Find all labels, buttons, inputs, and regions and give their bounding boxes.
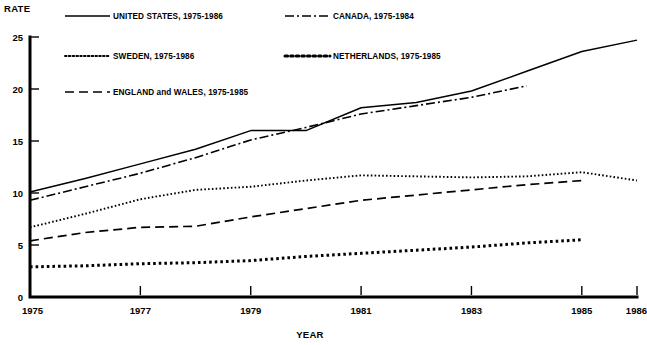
- series-line-3: [30, 181, 582, 241]
- x-tick-label: 1977: [130, 305, 151, 316]
- line-chart: RATE 0510152025 197519771979198119831985…: [0, 0, 647, 345]
- axis-lines: [30, 37, 637, 297]
- y-tick-label: 5: [18, 240, 24, 251]
- y-tick-label: 25: [12, 32, 23, 43]
- x-tick-label: 1985: [571, 305, 593, 316]
- legend-label-0: UNITED STATES, 1975-1986: [113, 12, 223, 21]
- y-tick-label: 15: [12, 136, 23, 147]
- series-line-2: [30, 172, 637, 227]
- chart-legend: UNITED STATES, 1975-1986CANADA, 1975-198…: [65, 12, 441, 97]
- x-axis-title: YEAR: [296, 329, 324, 340]
- legend-label-2: SWEDEN, 1975-1986: [113, 52, 195, 61]
- y-tick-label: 0: [18, 292, 23, 303]
- legend-label-1: CANADA, 1975-1984: [333, 12, 414, 21]
- legend-label-4: ENGLAND and WALES, 1975-1985: [113, 88, 249, 97]
- series-line-0: [30, 40, 637, 192]
- data-series-group: [30, 40, 637, 267]
- x-tick-label: 1983: [461, 305, 482, 316]
- y-axis-ticks: 0510152025: [12, 32, 39, 303]
- series-line-1: [30, 86, 527, 200]
- x-axis-ticks: 1975197719791981198319851986: [22, 286, 647, 316]
- x-tick-label: 1975: [22, 305, 44, 316]
- legend-label-3: NETHERLANDS, 1975-1985: [333, 52, 441, 61]
- y-axis-title: RATE: [4, 3, 30, 14]
- chart-container: RATE 0510152025 197519771979198119831985…: [0, 0, 647, 345]
- x-tick-label: 1986: [626, 305, 647, 316]
- series-line-4: [30, 240, 582, 267]
- y-tick-label: 10: [12, 188, 23, 199]
- y-tick-label: 20: [12, 84, 23, 95]
- x-tick-label: 1981: [351, 305, 373, 316]
- x-tick-label: 1979: [240, 305, 261, 316]
